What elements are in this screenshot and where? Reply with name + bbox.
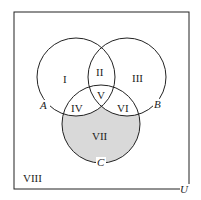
region-label-ii: II: [96, 66, 104, 78]
region-label-viii: VIII: [23, 172, 42, 184]
region-label-vii: VII: [92, 130, 108, 142]
universe-label: U: [180, 183, 189, 195]
region-label-vi: VI: [117, 102, 129, 114]
region-label-i: I: [63, 73, 67, 85]
venn-diagram: U A B C I II III IV V VI VII VIII: [0, 0, 201, 200]
set-label-b: B: [154, 98, 161, 110]
region-label-iv: IV: [71, 102, 83, 114]
region-label-iii: III: [132, 72, 143, 84]
set-label-a: A: [39, 99, 47, 111]
region-label-v: V: [97, 89, 105, 101]
set-label-c: C: [97, 156, 105, 168]
